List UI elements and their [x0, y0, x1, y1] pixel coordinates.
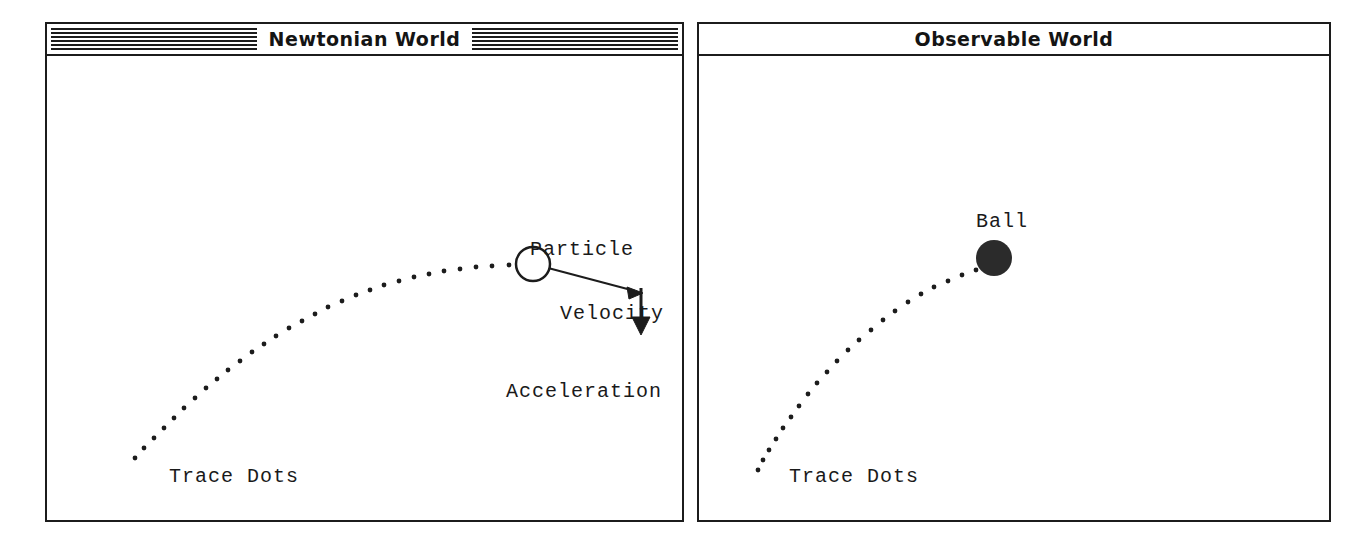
window-title-newtonian: Newtonian World — [257, 28, 473, 50]
label-trace-dots-newtonian: Trace Dots — [169, 465, 299, 488]
ball-circle — [976, 240, 1012, 276]
titlebar-newtonian-world[interactable]: Newtonian World — [47, 24, 682, 56]
label-ball: Ball — [976, 210, 1028, 233]
trace-dots-observable — [756, 264, 993, 473]
window-observable-world[interactable]: Observable World — [697, 22, 1331, 522]
observable-scene-svg — [699, 56, 1329, 520]
titlebar-observable-world[interactable]: Observable World — [699, 24, 1329, 56]
label-acceleration: Acceleration — [506, 380, 662, 403]
canvas-observable-world[interactable]: Ball Trace Dots — [699, 56, 1329, 520]
label-trace-dots-observable: Trace Dots — [789, 465, 919, 488]
canvas-newtonian-world[interactable]: Particle Velocity Acceleration Trace Dot… — [47, 56, 682, 520]
window-title-observable: Observable World — [915, 28, 1114, 50]
label-particle: Particle — [530, 238, 634, 261]
label-velocity: Velocity — [560, 302, 664, 325]
window-newtonian-world[interactable]: Newtonian World — [45, 22, 684, 522]
newtonian-scene-svg — [47, 56, 682, 520]
trace-dots-newtonian — [133, 263, 512, 461]
